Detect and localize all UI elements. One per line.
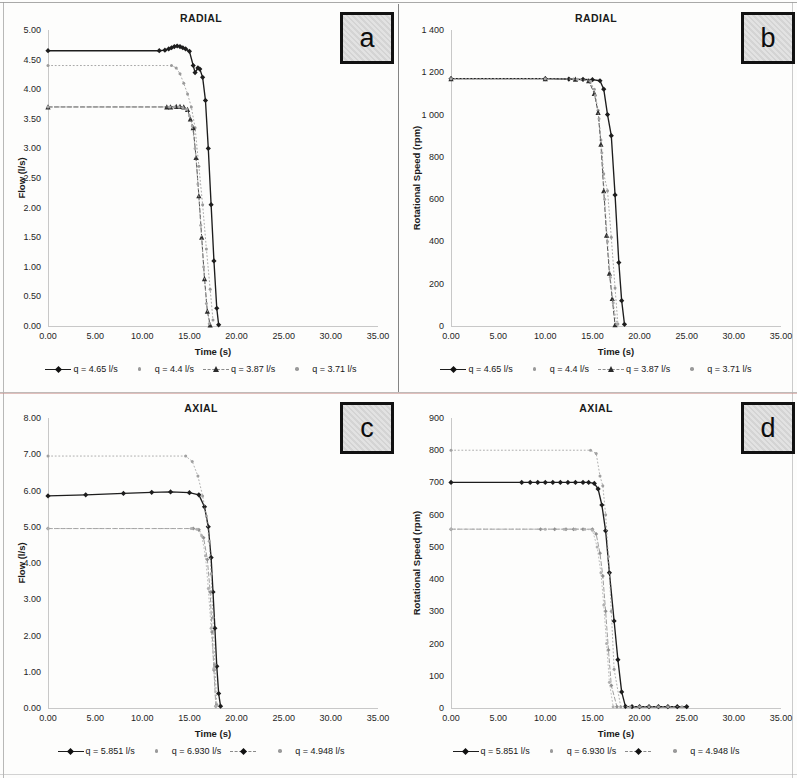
series-line bbox=[48, 106, 210, 324]
data-point-marker bbox=[207, 587, 210, 590]
data-point-marker bbox=[614, 286, 617, 289]
data-point-marker bbox=[182, 82, 185, 85]
data-point-marker bbox=[204, 554, 207, 557]
panel-b-plot: 02004006008001 0001 2001 4000.005.0010.0… bbox=[451, 30, 781, 326]
data-point-marker bbox=[543, 480, 548, 485]
y-tick-label: 800 bbox=[398, 445, 444, 455]
data-point-marker bbox=[179, 72, 182, 75]
data-point-marker bbox=[208, 322, 211, 325]
data-point-marker bbox=[190, 105, 193, 108]
panel-b-legend: q = 4.65 l/sq = 4.4 l/sq = 3.87 l/sq = 3… bbox=[399, 364, 793, 374]
data-point-marker bbox=[629, 705, 632, 708]
data-point-marker bbox=[187, 490, 192, 495]
panel-d-title: AXIAL bbox=[399, 402, 793, 414]
data-point-marker bbox=[607, 555, 610, 558]
y-tick-label: 5.00 bbox=[0, 522, 41, 532]
data-point-marker bbox=[47, 527, 50, 530]
legend-label: q = 6.930 l/s bbox=[567, 746, 616, 756]
panel-c: AXIAL c 0.001.002.003.004.005.006.007.00… bbox=[4, 394, 398, 776]
series-line bbox=[451, 529, 613, 707]
data-point-marker bbox=[201, 494, 204, 497]
legend-item: q = 4.65 l/s bbox=[440, 364, 512, 374]
data-point-marker bbox=[615, 323, 618, 326]
data-point-marker bbox=[609, 276, 612, 279]
x-tick-label: 20.00 bbox=[618, 331, 662, 341]
data-point-marker bbox=[603, 198, 606, 201]
x-tick-label: 15.00 bbox=[570, 331, 614, 341]
x-tick-label: 15.00 bbox=[570, 713, 614, 723]
series-line bbox=[451, 482, 687, 706]
y-tick-label: 2.00 bbox=[0, 203, 41, 213]
data-point-marker bbox=[535, 480, 540, 485]
data-point-marker bbox=[448, 480, 453, 485]
y-tick-label: 0 bbox=[398, 321, 444, 331]
figure-sheet: RADIAL a 0.000.501.001.502.002.503.003.5… bbox=[0, 0, 797, 778]
legend-key-icon bbox=[127, 365, 153, 374]
data-point-marker bbox=[197, 165, 200, 168]
y-tick-label: 0.00 bbox=[0, 321, 41, 331]
data-point-marker bbox=[609, 133, 614, 138]
y-axis-label: Rotational Speed (rpm) bbox=[411, 511, 422, 616]
x-tick-label: 20.00 bbox=[215, 331, 259, 341]
data-point-marker bbox=[175, 66, 178, 69]
legend-item: q = 4.65 l/s bbox=[45, 364, 117, 374]
legend-marker-diamond-icon bbox=[55, 365, 62, 372]
data-point-marker bbox=[170, 64, 173, 67]
data-point-marker bbox=[212, 667, 215, 670]
data-point-marker bbox=[210, 627, 213, 630]
data-point-marker bbox=[681, 705, 684, 708]
y-tick-label: 5.00 bbox=[0, 25, 41, 35]
x-tick-label: 10.00 bbox=[120, 713, 164, 723]
data-point-marker bbox=[200, 534, 203, 537]
data-point-marker bbox=[606, 240, 609, 243]
data-point-marker bbox=[194, 147, 197, 150]
y-tick-label: 4.50 bbox=[0, 55, 41, 65]
x-tick-label: 0.00 bbox=[429, 713, 473, 723]
y-tick-label: 1.50 bbox=[0, 232, 41, 242]
x-tick-label: 5.00 bbox=[476, 713, 520, 723]
x-tick-label: 25.00 bbox=[262, 331, 306, 341]
data-point-marker bbox=[594, 94, 597, 97]
legend-item bbox=[230, 747, 258, 756]
x-axis-line bbox=[451, 708, 781, 709]
x-tick-label: 10.00 bbox=[523, 713, 567, 723]
y-tick-label: 1.00 bbox=[0, 667, 41, 677]
data-point-marker bbox=[583, 528, 586, 531]
panel-d: AXIAL d 01002003004005006007008009000.00… bbox=[399, 394, 793, 776]
legend-key-icon bbox=[539, 747, 565, 756]
data-point-marker bbox=[450, 528, 453, 531]
series-line bbox=[48, 66, 213, 321]
legend-marker-dot-icon bbox=[155, 749, 159, 753]
data-point-marker bbox=[203, 98, 208, 103]
data-point-marker bbox=[211, 258, 216, 263]
y-tick-label: 200 bbox=[398, 639, 444, 649]
data-point-marker bbox=[599, 502, 604, 507]
legend-marker-tri-icon bbox=[608, 366, 614, 372]
y-tick-label: 2.00 bbox=[0, 631, 41, 641]
y-tick-label: 1 200 bbox=[398, 67, 444, 77]
x-tick-label: 25.00 bbox=[262, 713, 306, 723]
data-point-marker bbox=[173, 105, 176, 108]
panel-c-legend: q = 5.851 l/sq = 6.930 l/sq = 4.948 l/s bbox=[4, 746, 398, 756]
data-point-marker bbox=[657, 705, 660, 708]
data-point-marker bbox=[610, 236, 613, 239]
legend-item: q = 3.87 l/s bbox=[598, 364, 670, 374]
data-point-marker bbox=[196, 475, 199, 478]
data-point-marker bbox=[595, 452, 598, 455]
x-tick-label: 5.00 bbox=[73, 331, 117, 341]
y-tick-label: 0 bbox=[398, 703, 444, 713]
data-point-marker bbox=[200, 75, 205, 80]
legend-label: q = 4.948 l/s bbox=[690, 746, 739, 756]
y-tick-label: 1 000 bbox=[398, 110, 444, 120]
data-point-marker bbox=[191, 124, 194, 127]
x-tick-label: 20.00 bbox=[618, 713, 662, 723]
x-axis-label: Time (s) bbox=[451, 346, 781, 357]
legend-item: q = 3.71 l/s bbox=[679, 364, 751, 374]
y-tick-label: 8.00 bbox=[0, 413, 41, 423]
panel-b: RADIAL b 02004006008001 0001 2001 4000.0… bbox=[399, 4, 793, 392]
x-tick-label: 10.00 bbox=[120, 331, 164, 341]
data-point-marker bbox=[638, 705, 641, 708]
data-point-marker bbox=[604, 232, 609, 237]
data-point-marker bbox=[47, 455, 50, 458]
x-axis-label: Time (s) bbox=[48, 346, 378, 357]
